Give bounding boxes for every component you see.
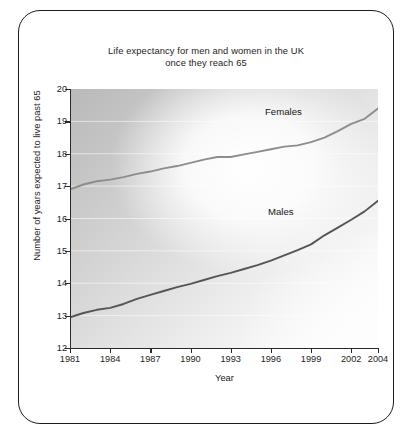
chart-title: Life expectancy for men and women in the… [18, 45, 394, 70]
x-tick-mark-2004 [378, 348, 379, 353]
x-tick-label-2002: 2002 [341, 354, 361, 364]
x-tick-mark-1981 [70, 348, 71, 353]
plot-area [70, 89, 378, 348]
y-tick-label-17: 17 [57, 181, 67, 191]
series-lines [70, 89, 378, 348]
y-axis-line: 121314151617181920 [70, 89, 71, 349]
y-tick-label-16: 16 [57, 214, 67, 224]
x-tick-label-1999: 1999 [301, 354, 321, 364]
y-tick-label-12: 12 [57, 343, 67, 353]
chart-figure: Life expectancy for men and women in the… [18, 10, 394, 424]
x-axis-line: 198119841987199019931996199920022004 [70, 348, 379, 349]
y-axis-title: Number of years expected to live past 65 [31, 76, 42, 276]
x-tick-mark-1993 [231, 348, 232, 353]
x-tick-label-1987: 1987 [140, 354, 160, 364]
series-label-males: Males [268, 206, 294, 217]
x-axis-title: Year [70, 372, 379, 383]
x-tick-mark-1987 [150, 348, 151, 353]
y-tick-label-20: 20 [57, 84, 67, 94]
y-tick-label-19: 19 [57, 116, 67, 126]
x-tick-mark-2002 [351, 348, 352, 353]
x-tick-mark-1999 [311, 348, 312, 353]
x-tick-mark-1984 [110, 348, 111, 353]
series-line-males [70, 201, 378, 318]
x-tick-label-1990: 1990 [180, 354, 200, 364]
y-tick-label-18: 18 [57, 149, 67, 159]
x-tick-mark-1996 [271, 348, 272, 353]
x-tick-label-1984: 1984 [100, 354, 120, 364]
y-tick-label-14: 14 [57, 278, 67, 288]
series-line-females [70, 108, 378, 189]
x-tick-mark-1990 [191, 348, 192, 353]
x-tick-label-2004: 2004 [368, 354, 388, 364]
y-tick-label-15: 15 [57, 246, 67, 256]
series-label-females: Females [265, 106, 302, 117]
x-tick-label-1993: 1993 [220, 354, 240, 364]
y-tick-label-13: 13 [57, 311, 67, 321]
x-tick-label-1981: 1981 [60, 354, 80, 364]
x-tick-label-1996: 1996 [261, 354, 281, 364]
screenshot-root: Life expectancy for men and women in the… [0, 0, 404, 435]
